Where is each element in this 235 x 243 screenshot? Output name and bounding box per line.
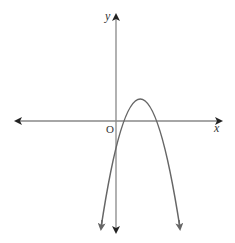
curve-left-arrow <box>101 220 102 229</box>
curve-right-arrow <box>179 220 180 229</box>
y-axis-label: y <box>104 9 111 23</box>
x-axis-label: x <box>213 121 220 135</box>
origin-label: O <box>106 123 114 135</box>
parabola-curve <box>101 99 180 228</box>
coordinate-graph: y x O <box>0 0 235 243</box>
